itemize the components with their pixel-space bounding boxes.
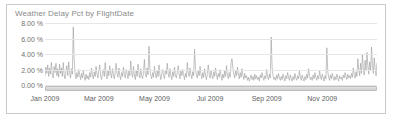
x-axis-tick-label: Mar 2009 [84, 95, 114, 102]
y-axis-tick-label: 0.00 % [21, 82, 43, 89]
gridline [45, 70, 377, 71]
x-axis-tick-label: May 2009 [139, 95, 170, 102]
range-slider-thumb[interactable] [46, 87, 376, 90]
gridline [45, 54, 377, 55]
y-axis-tick-label: 8.00 % [21, 20, 43, 27]
chart-panel: Weather Delay Pct by FlightDate 0.00 %2.… [6, 4, 386, 114]
gridline [45, 23, 377, 24]
y-axis-tick-label: 4.00 % [21, 51, 43, 58]
x-axis: Jan 2009Mar 2009May 2009Jul 2009Sep 2009… [45, 95, 377, 109]
y-axis-tick-label: 2.00 % [21, 66, 43, 73]
horizontal-range-slider[interactable] [45, 86, 377, 91]
y-axis: 0.00 %2.00 %4.00 %6.00 %8.00 % [7, 23, 43, 85]
chart-title: Weather Delay Pct by FlightDate [15, 9, 134, 18]
y-axis-tick-label: 6.00 % [21, 35, 43, 42]
plot-area [45, 23, 377, 85]
plot-wrapper: 0.00 %2.00 %4.00 %6.00 %8.00 % Jan 2009M… [7, 23, 385, 113]
gridline [45, 39, 377, 40]
x-axis-tick-label: Sep 2009 [252, 95, 282, 102]
x-axis-tick-label: Nov 2009 [307, 95, 337, 102]
x-axis-tick-label: Jul 2009 [197, 95, 223, 102]
x-axis-tick-label: Jan 2009 [31, 95, 60, 102]
